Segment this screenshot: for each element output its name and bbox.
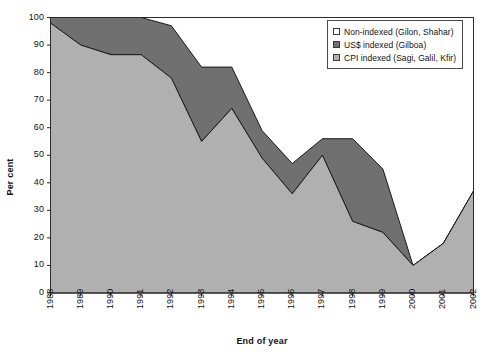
legend-label-cpi-indexed: CPI indexed (Sagi, Galil, Kfir) — [344, 53, 456, 63]
x-tick-label: 2002 — [468, 297, 480, 331]
x-tick-label: 1998 — [347, 297, 359, 331]
legend-item-cpi-indexed: CPI indexed (Sagi, Galil, Kfir) — [333, 51, 456, 64]
x-tick-label: 1990 — [105, 297, 117, 331]
chart-legend: Non-indexed (Gilon, Shahar) US$ indexed … — [327, 20, 463, 69]
legend-swatch-cpi-indexed — [333, 54, 340, 61]
x-axis-title-text: End of year — [236, 336, 287, 346]
x-tick-label: 1999 — [377, 297, 389, 331]
legend-label-usd-indexed: US$ indexed (Gilboa) — [344, 40, 426, 50]
x-tick-label: 1993 — [196, 297, 208, 331]
legend-label-non-indexed: Non-indexed (Gilon, Shahar) — [344, 27, 454, 37]
legend-item-usd-indexed: US$ indexed (Gilboa) — [333, 38, 456, 51]
x-tick-label: 2001 — [437, 297, 449, 331]
legend-item-non-indexed: Non-indexed (Gilon, Shahar) — [333, 25, 456, 38]
x-tick-label: 1995 — [256, 297, 268, 331]
legend-swatch-usd-indexed — [333, 41, 340, 48]
x-tick-label: 1992 — [165, 297, 177, 331]
x-tick-label: 1994 — [226, 297, 238, 331]
x-tick-label: 2000 — [407, 297, 419, 331]
legend-swatch-non-indexed — [333, 28, 340, 35]
x-tick-label: 1991 — [135, 297, 147, 331]
chart-figure: Per cent 0102030405060708090100 19881989… — [0, 0, 488, 354]
x-tick-label: 1989 — [75, 297, 87, 331]
x-tick-label: 1988 — [45, 297, 57, 331]
x-tick-label: 1997 — [316, 297, 328, 331]
x-tick-label: 1996 — [286, 297, 298, 331]
x-axis-title: End of year — [50, 336, 474, 346]
